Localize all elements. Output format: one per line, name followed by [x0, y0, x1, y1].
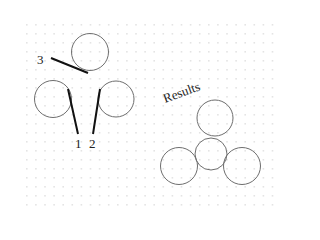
grid-dot — [199, 96, 201, 98]
grid-dot — [172, 132, 174, 134]
grid-dot — [72, 69, 74, 71]
grid-dot — [90, 168, 92, 170]
grid-dot — [272, 177, 274, 179]
grid-dot — [144, 114, 146, 116]
grid-dot — [217, 87, 219, 89]
grid-dot — [126, 123, 128, 125]
grid-dot — [108, 69, 110, 71]
grid-dot — [254, 42, 256, 44]
grid-dot — [35, 141, 37, 143]
grid-dot — [208, 42, 210, 44]
results-label: Results — [161, 79, 202, 106]
grid-dot — [90, 204, 92, 206]
grid-dot — [272, 141, 274, 143]
grid-dot — [272, 87, 274, 89]
grid-dot — [135, 78, 137, 80]
grid-dot — [153, 33, 155, 35]
grid-dot — [35, 114, 37, 116]
grid-dot — [26, 51, 28, 53]
grid-dot — [244, 105, 246, 107]
grid-dot — [235, 177, 237, 179]
grid-dot — [99, 24, 101, 26]
grid-dot — [217, 24, 219, 26]
grid-dot — [26, 150, 28, 152]
grid-dot — [190, 78, 192, 80]
grid-dot — [26, 177, 28, 179]
grid-dot — [208, 60, 210, 62]
grid-dot — [53, 177, 55, 179]
grid-dot — [81, 42, 83, 44]
grid-dot — [226, 42, 228, 44]
grid-dot — [190, 114, 192, 116]
grid-dot — [117, 132, 119, 134]
grid-dot — [81, 96, 83, 98]
grid-dot — [126, 51, 128, 53]
input-circles — [35, 34, 135, 118]
grid-dot — [72, 159, 74, 161]
result-circle-left — [161, 148, 198, 185]
grid-dot — [244, 42, 246, 44]
pointer-line-3 — [51, 58, 88, 73]
grid-dot — [62, 51, 64, 53]
grid-dot — [44, 24, 46, 26]
grid-dot — [226, 24, 228, 26]
grid-dot — [254, 159, 256, 161]
grid-dot — [81, 114, 83, 116]
grid-dot — [235, 204, 237, 206]
grid-dot — [244, 168, 246, 170]
grid-dot — [99, 204, 101, 206]
grid-dot — [263, 150, 265, 152]
grid-dot — [254, 69, 256, 71]
grid-dot — [199, 150, 201, 152]
grid-dot — [53, 42, 55, 44]
grid-dot — [117, 33, 119, 35]
grid-dot — [208, 186, 210, 188]
grid-dot — [126, 177, 128, 179]
grid-dot — [90, 105, 92, 107]
grid-dot — [199, 42, 201, 44]
grid-dot — [81, 87, 83, 89]
grid-dot — [126, 186, 128, 188]
grid-dot — [153, 123, 155, 125]
grid-dot — [117, 159, 119, 161]
grid-dot — [226, 114, 228, 116]
grid-dot — [44, 150, 46, 152]
grid-dot — [244, 123, 246, 125]
grid-dot — [62, 186, 64, 188]
grid-dot — [26, 204, 28, 206]
pointer-label-3: 3 — [37, 52, 44, 67]
grid-dot — [72, 150, 74, 152]
grid-dot — [263, 159, 265, 161]
grid-dot — [144, 141, 146, 143]
grid-dot — [53, 168, 55, 170]
grid-dot — [244, 204, 246, 206]
grid-dot — [135, 114, 137, 116]
grid-dot — [181, 51, 183, 53]
grid-dot — [53, 204, 55, 206]
grid-dot — [99, 33, 101, 35]
grid-dot — [163, 204, 165, 206]
grid-dot — [26, 132, 28, 134]
grid-dot — [272, 60, 274, 62]
grid-dot — [254, 123, 256, 125]
grid-dot — [26, 87, 28, 89]
grid-dot — [117, 177, 119, 179]
grid-dot — [81, 204, 83, 206]
grid-dot — [99, 78, 101, 80]
grid-dot — [208, 69, 210, 71]
grid-dot — [272, 114, 274, 116]
grid-dot — [226, 141, 228, 143]
grid-dot — [217, 96, 219, 98]
grid-dot — [126, 78, 128, 80]
grid-dot — [217, 195, 219, 197]
grid-dot — [272, 204, 274, 206]
grid-dot — [135, 168, 137, 170]
grid-dot — [35, 168, 37, 170]
grid-dot — [153, 204, 155, 206]
grid-dot — [199, 132, 201, 134]
grid-dot — [135, 42, 137, 44]
grid-dot — [190, 33, 192, 35]
grid-dot — [99, 114, 101, 116]
grid-dot — [254, 141, 256, 143]
grid-dot — [153, 186, 155, 188]
